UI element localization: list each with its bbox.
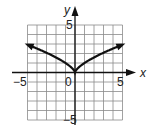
x-tick-max: 5 [117,75,124,89]
axes [12,6,136,125]
curve-right-arrow-icon [116,44,126,51]
x-tick-min: −5 [13,75,27,89]
y-tick-min: −5 [63,113,77,127]
y-axis-arrow-icon [72,6,79,16]
x-axis-arrow-icon [126,69,136,76]
y-axis-label: y [63,3,71,17]
curve-left-arrow-icon [25,44,35,51]
x-tick-origin: 0 [65,75,72,89]
graph: x y −5 0 5 5 −5 [0,0,157,129]
x-axis-label: x [139,66,147,80]
y-tick-max: 5 [66,18,73,32]
